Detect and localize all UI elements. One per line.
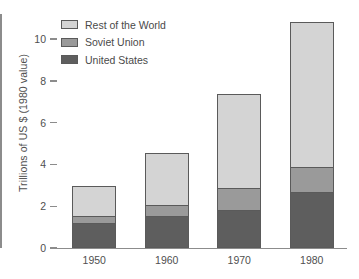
x-axis-tick-label-1980: 1980 bbox=[282, 254, 342, 266]
stacked-bar-chart: Trillions of US $ (1980 value) 0246810 1… bbox=[0, 0, 359, 279]
bar-segment-united-states bbox=[218, 210, 260, 247]
legend-item-united-states: United States bbox=[61, 52, 166, 67]
chart-legend: Rest of the WorldSoviet UnionUnited Stat… bbox=[61, 17, 166, 70]
legend-item-label: United States bbox=[85, 54, 148, 66]
legend-swatch-icon bbox=[61, 55, 78, 64]
y-axis-tick bbox=[50, 164, 57, 165]
y-axis-tick-label: 4 bbox=[0, 158, 46, 170]
y-axis-tick-label: 2 bbox=[0, 200, 46, 212]
bar-1970 bbox=[217, 94, 261, 248]
legend-item-label: Rest of the World bbox=[85, 19, 166, 31]
bar-segment-rest-of-the-world bbox=[291, 23, 333, 167]
x-axis-tick-label-1970: 1970 bbox=[209, 254, 269, 266]
x-axis-tick-label-1960: 1960 bbox=[137, 254, 197, 266]
bar-segment-soviet-union bbox=[218, 188, 260, 210]
legend-item-soviet-union: Soviet Union bbox=[61, 35, 166, 50]
bar-segment-soviet-union bbox=[291, 167, 333, 192]
y-axis-tick-label: 10 bbox=[0, 33, 46, 45]
x-axis-tick-label-1950: 1950 bbox=[64, 254, 124, 266]
y-axis-tick bbox=[50, 206, 57, 207]
legend-item-rest-of-the-world: Rest of the World bbox=[61, 17, 166, 32]
bar-segment-soviet-union bbox=[73, 216, 115, 223]
y-axis-tick bbox=[50, 247, 57, 248]
legend-swatch-icon bbox=[61, 38, 78, 47]
bar-segment-soviet-union bbox=[146, 205, 188, 216]
bar-segment-united-states bbox=[291, 192, 333, 247]
bar-segment-rest-of-the-world bbox=[146, 154, 188, 205]
legend-swatch-icon bbox=[61, 20, 78, 29]
bar-segment-rest-of-the-world bbox=[218, 95, 260, 188]
bar-1950 bbox=[72, 186, 116, 248]
y-axis-tick bbox=[50, 80, 57, 81]
bar-segment-rest-of-the-world bbox=[73, 187, 115, 215]
bar-segment-united-states bbox=[146, 216, 188, 247]
y-axis-tick-label: 6 bbox=[0, 117, 46, 129]
y-axis-tick bbox=[50, 122, 57, 123]
y-axis-line bbox=[0, 14, 2, 248]
y-axis-tick-label: 0 bbox=[0, 242, 46, 254]
legend-item-label: Soviet Union bbox=[85, 36, 145, 48]
bar-1960 bbox=[145, 153, 189, 248]
y-axis-tick bbox=[50, 38, 57, 39]
bar-segment-united-states bbox=[73, 223, 115, 247]
bar-1980 bbox=[290, 22, 334, 248]
y-axis-tick-label: 8 bbox=[0, 75, 46, 87]
